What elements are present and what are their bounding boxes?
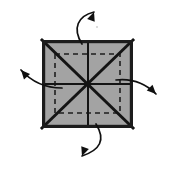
speck-mark (96, 26, 98, 28)
fold-diagram-svg (0, 0, 173, 170)
fold-diagram-container (0, 0, 173, 170)
